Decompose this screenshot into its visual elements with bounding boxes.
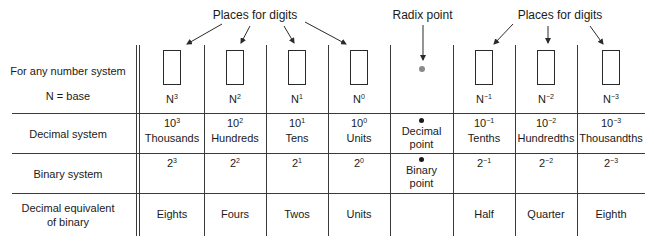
base-power-label: N−3 bbox=[577, 93, 645, 106]
decimal-power-value-exponent: 0 bbox=[363, 117, 367, 124]
decimal-power-value: 10−3 bbox=[601, 117, 621, 129]
row-label-decimal-equiv: Decimal equivalent of binary bbox=[0, 201, 136, 229]
row-divider bbox=[12, 193, 645, 194]
decimal-power: 10−1 bbox=[453, 117, 515, 130]
base-power-exponent: 2 bbox=[237, 93, 241, 100]
decimal-equivalent-cell: Twos bbox=[266, 208, 328, 221]
digit-place-box bbox=[602, 50, 620, 85]
decimal-place-name: Units bbox=[328, 132, 390, 145]
base-power-base: N bbox=[538, 93, 546, 105]
binary-point-label: Binarypoint bbox=[390, 164, 453, 190]
row-label-decimal-equiv-line2: of binary bbox=[0, 215, 136, 229]
binary-power-cell: 23 bbox=[140, 157, 204, 170]
base-power: N−2 bbox=[538, 93, 554, 105]
base-power: N1 bbox=[291, 93, 303, 105]
decimal-equivalent-cell: Eights bbox=[140, 208, 204, 221]
double-divider-a bbox=[136, 45, 137, 236]
decimal-power-value: 10−1 bbox=[474, 117, 494, 129]
decimal-power-value-base: 10 bbox=[227, 117, 239, 129]
decimal-power-cell: 100Units bbox=[328, 117, 390, 145]
decimal-power-value-exponent: −2 bbox=[548, 117, 556, 124]
base-power-base: N bbox=[353, 93, 361, 105]
base-power-label: N0 bbox=[328, 93, 390, 106]
decimal-power-cell: 10−1Tenths bbox=[453, 117, 515, 145]
base-power-base: N bbox=[603, 93, 611, 105]
decimal-power-value: 102 bbox=[227, 117, 243, 129]
binary-power-cell: 20 bbox=[328, 157, 390, 170]
binary-power: 2−2 bbox=[539, 157, 553, 169]
decimal-power-cell: 10−3Thousandths bbox=[577, 117, 645, 145]
binary-point-line2: point bbox=[390, 177, 453, 190]
base-power-label: N−1 bbox=[453, 93, 515, 106]
binary-power: 21 bbox=[292, 157, 302, 169]
base-power: N0 bbox=[353, 93, 365, 105]
decimal-power-value-base: 10 bbox=[601, 117, 613, 129]
decimal-power-value-exponent: −3 bbox=[613, 117, 621, 124]
decimal-point-dot bbox=[419, 118, 424, 123]
decimal-point-line1: Decimal bbox=[390, 125, 453, 138]
decimal-place-name: Hundredths bbox=[515, 132, 577, 145]
row-label-n-base: N = base bbox=[0, 89, 136, 103]
decimal-power: 10−2 bbox=[515, 117, 577, 130]
base-power-exponent: 0 bbox=[361, 93, 365, 100]
base-power-exponent: −2 bbox=[546, 93, 554, 100]
decimal-power-value-base: 10 bbox=[474, 117, 486, 129]
row-label-binary: Binary system bbox=[0, 167, 136, 181]
base-power-base: N bbox=[291, 93, 299, 105]
base-power: N−1 bbox=[476, 93, 492, 105]
decimal-power-value-exponent: 3 bbox=[176, 117, 180, 124]
decimal-place-name: Hundreds bbox=[204, 132, 266, 145]
binary-point-line1: Binary bbox=[390, 164, 453, 177]
digit-place-box bbox=[288, 50, 306, 85]
base-power-label: N−2 bbox=[515, 93, 577, 106]
base-power-label: N1 bbox=[266, 93, 328, 106]
row-label-decimal-equiv-line1: Decimal equivalent bbox=[0, 201, 136, 215]
decimal-power-cell: 101Tens bbox=[266, 117, 328, 145]
decimal-power-value: 101 bbox=[289, 117, 305, 129]
decimal-equivalent-cell: Units bbox=[328, 208, 390, 221]
base-power: N3 bbox=[166, 93, 178, 105]
decimal-place-name: Tenths bbox=[453, 132, 515, 145]
binary-power-exponent: −3 bbox=[610, 157, 618, 164]
decimal-power-value-base: 10 bbox=[289, 117, 301, 129]
base-power-label: N3 bbox=[140, 93, 204, 106]
decimal-equivalent-cell: Half bbox=[453, 208, 515, 221]
decimal-power-cell: 102Hundreds bbox=[204, 117, 266, 145]
base-power: N2 bbox=[229, 93, 241, 105]
binary-power: 20 bbox=[354, 157, 364, 169]
decimal-power: 101 bbox=[266, 117, 328, 130]
decimal-power: 10−3 bbox=[577, 117, 645, 130]
decimal-place-name: Thousands bbox=[140, 132, 204, 145]
row-divider bbox=[12, 153, 645, 154]
base-power-exponent: −1 bbox=[484, 93, 492, 100]
digit-place-box bbox=[475, 50, 493, 85]
binary-power: 2−1 bbox=[477, 157, 491, 169]
base-power-base: N bbox=[229, 93, 237, 105]
decimal-point-line2: point bbox=[390, 138, 453, 151]
binary-power-exponent: 0 bbox=[360, 157, 364, 164]
decimal-equivalent-cell: Fours bbox=[204, 208, 266, 221]
binary-power-exponent: 2 bbox=[236, 157, 240, 164]
binary-power-cell: 2−1 bbox=[453, 157, 515, 170]
decimal-power-value-exponent: 2 bbox=[239, 117, 243, 124]
decimal-power-value: 100 bbox=[351, 117, 367, 129]
binary-power-cell: 21 bbox=[266, 157, 328, 170]
digit-place-box bbox=[350, 50, 368, 85]
decimal-power-value-base: 10 bbox=[164, 117, 176, 129]
decimal-point-label: Decimalpoint bbox=[390, 125, 453, 151]
decimal-equivalent-cell: Quarter bbox=[515, 208, 577, 221]
decimal-power: 103 bbox=[140, 117, 204, 130]
base-power-exponent: 1 bbox=[299, 93, 303, 100]
decimal-power-cell: 10−2Hundredths bbox=[515, 117, 577, 145]
binary-power: 2−3 bbox=[604, 157, 618, 169]
base-power: N−3 bbox=[603, 93, 619, 105]
decimal-power-value-base: 10 bbox=[351, 117, 363, 129]
digit-place-box bbox=[163, 50, 181, 85]
radix-point-dot bbox=[419, 66, 425, 72]
base-power-label: N2 bbox=[204, 93, 266, 106]
digit-place-box bbox=[537, 50, 555, 85]
row-divider bbox=[12, 113, 645, 114]
binary-power-exponent: −1 bbox=[483, 157, 491, 164]
decimal-place-name: Thousandths bbox=[577, 132, 645, 145]
binary-power: 22 bbox=[230, 157, 240, 169]
